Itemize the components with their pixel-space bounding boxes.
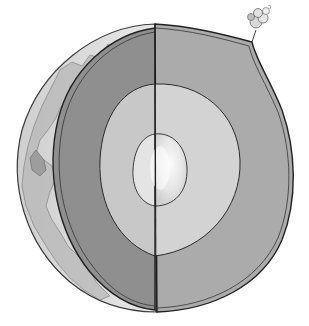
- earth-cross-section-illustration: [0, 0, 309, 326]
- right-cut-face: [150, 24, 293, 312]
- volcano-plume-icon: [248, 5, 271, 42]
